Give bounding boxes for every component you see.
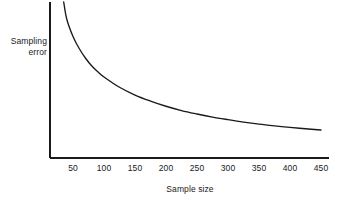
- x-tick-label-400: 400: [275, 163, 305, 173]
- x-tick-label-100: 100: [89, 163, 119, 173]
- x-tick-label-200: 200: [151, 163, 181, 173]
- x-tick-label-350: 350: [244, 163, 274, 173]
- x-tick-label-150: 150: [120, 163, 150, 173]
- sampling-error-curve: [64, 2, 321, 130]
- chart-figure: Sampling error Sample size 5010015020025…: [0, 0, 340, 206]
- x-tick-label-450: 450: [306, 163, 336, 173]
- x-tick-label-300: 300: [213, 163, 243, 173]
- x-tick-label-50: 50: [58, 163, 88, 173]
- x-tick-label-250: 250: [182, 163, 212, 173]
- sampling-error-line-chart: [0, 0, 340, 206]
- y-axis-label-line-1: Sampling: [0, 36, 47, 47]
- y-axis-label: Sampling error: [0, 36, 47, 57]
- x-axis-title: Sample size: [120, 184, 260, 194]
- y-axis-label-line-2: error: [0, 47, 47, 58]
